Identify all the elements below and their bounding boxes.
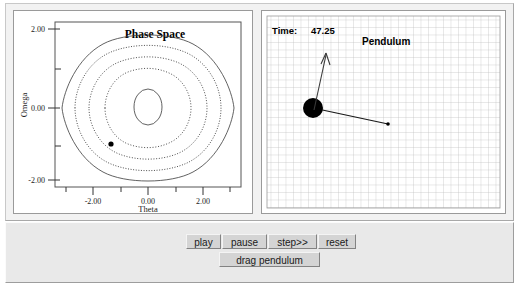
pendulum-title: Pendulum — [362, 36, 410, 47]
x-tick-label-right: 2.00 — [196, 197, 210, 206]
y-tick-label-top: 2.00 — [31, 25, 45, 34]
time-label: Time: — [272, 25, 297, 36]
pendulum-simulation-app: 2.00 0.00 -2.00 -2.00 0.00 2.00 Theta Om… — [0, 0, 517, 285]
pendulum-pivot — [386, 122, 390, 126]
pendulum-bob[interactable] — [303, 98, 323, 118]
phase-space-canvas[interactable]: 2.00 0.00 -2.00 -2.00 0.00 2.00 Theta Om… — [15, 12, 251, 212]
pendulum-view[interactable]: Time: 47.25 Pendulum — [263, 12, 504, 212]
step-button[interactable]: step>> — [268, 234, 317, 249]
phase-space-plot: 2.00 0.00 -2.00 -2.00 0.00 2.00 Theta Om… — [15, 12, 251, 212]
plot-frame — [55, 22, 241, 187]
y-tick-label-mid: 0.00 — [31, 104, 45, 113]
pendulum-panel[interactable]: Time: 47.25 Pendulum — [261, 10, 506, 214]
y-axis-title: Omega — [19, 93, 29, 118]
pendulum-canvas[interactable]: Time: 47.25 Pendulum — [263, 12, 504, 212]
x-axis-title: Theta — [138, 204, 158, 212]
time-value: 47.25 — [311, 25, 335, 36]
control-bar: play pause step>> reset drag pendulum — [5, 222, 514, 283]
play-button[interactable]: play — [186, 234, 221, 249]
phase-space-title: Phase Space — [125, 28, 185, 41]
y-tick-label-bottom: -2.00 — [28, 176, 45, 185]
reset-button[interactable]: reset — [318, 234, 356, 249]
x-tick-label-left: -2.00 — [85, 197, 102, 206]
drag-pendulum-button[interactable]: drag pendulum — [219, 252, 320, 267]
simulation-area: 2.00 0.00 -2.00 -2.00 0.00 2.00 Theta Om… — [5, 3, 514, 221]
state-point-marker — [108, 141, 113, 146]
phase-space-panel[interactable]: 2.00 0.00 -2.00 -2.00 0.00 2.00 Theta Om… — [13, 10, 253, 214]
x-axis-ticks — [66, 187, 230, 195]
pause-button[interactable]: pause — [222, 234, 267, 249]
